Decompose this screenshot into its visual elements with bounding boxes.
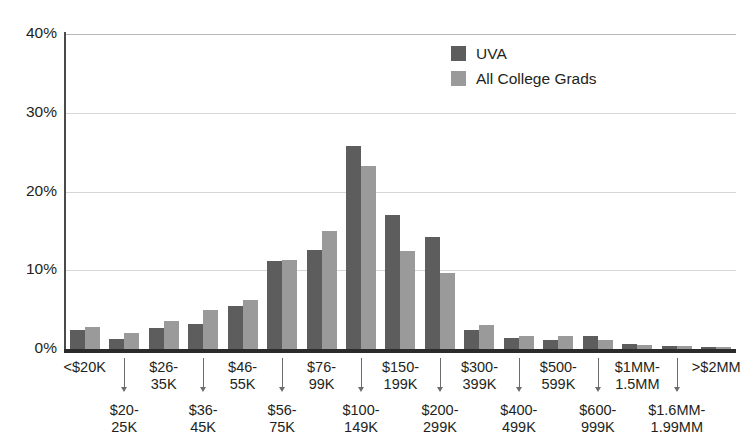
bar-group: [657, 34, 696, 349]
bar-all-college-grads: [519, 336, 534, 349]
bar-all-college-grads: [440, 273, 455, 349]
x-axis-tick-label: $100-149K: [316, 402, 406, 436]
x-axis-tick-label: $36-45K: [158, 402, 248, 436]
bar-all-college-grads: [400, 251, 415, 349]
x-axis-tick-label-line: >$2MM: [671, 359, 756, 376]
legend-label-all-college-grads: All College Grads: [476, 70, 597, 88]
bar-all-college-grads: [558, 336, 573, 349]
x-axis-tick-label-line: 1.99MM: [632, 419, 722, 436]
y-axis-line: [64, 32, 66, 351]
plot-area: [65, 34, 736, 349]
x-axis-tick-label-line: 499K: [474, 419, 564, 436]
x-axis-tick-label: $26-35K: [119, 359, 209, 393]
y-axis-tick-label: 30%: [0, 103, 57, 121]
bar-uva: [346, 146, 361, 349]
x-axis-tick-label-line: $600-: [553, 402, 643, 419]
legend-item-all-college-grads: All College Grads: [451, 66, 597, 91]
x-axis-tick-label: $400-499K: [474, 402, 564, 436]
bar-group: [65, 34, 104, 349]
x-axis-line: [64, 349, 736, 353]
bar-uva: [583, 336, 598, 349]
bar-all-college-grads: [243, 300, 258, 349]
x-axis-tick-label-line: 35K: [119, 376, 209, 393]
x-axis-tick-label-line: 399K: [434, 376, 524, 393]
x-axis-tick-label: >$2MM: [671, 359, 756, 376]
y-axis-tick-label: 10%: [0, 260, 57, 278]
x-axis-labels: <$20K$20-25K$26-35K$36-45K$46-55K$56-75K…: [65, 356, 736, 443]
x-axis-tick-label-line: 99K: [277, 376, 367, 393]
x-axis-tick-label: $500-599K: [513, 359, 603, 393]
bar-group: [104, 34, 143, 349]
x-axis-tick-label-line: $36-: [158, 402, 248, 419]
x-axis-tick-label-line: $26-: [119, 359, 209, 376]
bar-group: [302, 34, 341, 349]
bar-all-college-grads: [203, 310, 218, 349]
bar-uva: [425, 237, 440, 349]
x-axis-tick-label-line: 299K: [395, 419, 485, 436]
x-axis-tick-label-line: 55K: [198, 376, 288, 393]
bar-all-college-grads: [322, 231, 337, 349]
x-axis-tick-label-line: $300-: [434, 359, 524, 376]
x-axis-tick-label-line: $1MM-: [592, 359, 682, 376]
x-axis-tick-label-line: $100-: [316, 402, 406, 419]
bar-group: [183, 34, 222, 349]
x-axis-tick-label-line: $150-: [356, 359, 446, 376]
x-axis-tick-label-line: 75K: [237, 419, 327, 436]
x-axis-tick-label-line: $20-: [79, 402, 169, 419]
x-axis-tick-label-line: <$20K: [40, 359, 130, 376]
bar-uva: [543, 340, 558, 349]
bar-group: [341, 34, 380, 349]
x-axis-tick-label-line: $76-: [277, 359, 367, 376]
bar-uva: [228, 306, 243, 349]
bar-uva: [70, 330, 85, 349]
legend-swatch-all-college-grads: [451, 71, 466, 86]
bar-uva: [109, 339, 124, 349]
x-axis-tick-label: $600-999K: [553, 402, 643, 436]
bar-all-college-grads: [124, 333, 139, 349]
x-axis-tick-label-line: 999K: [553, 419, 643, 436]
bar-series-container: [65, 34, 736, 349]
x-axis-tick-label: $1.6MM-1.99MM: [632, 402, 722, 436]
legend-item-uva: UVA: [451, 41, 597, 66]
y-axis-tick-label: 20%: [0, 182, 57, 200]
bar-group: [618, 34, 657, 349]
bar-all-college-grads: [479, 325, 494, 349]
bar-all-college-grads: [164, 321, 179, 349]
x-axis-tick-label-line: $400-: [474, 402, 564, 419]
y-axis-tick-label: 0%: [0, 339, 57, 357]
x-axis-tick-arrow-icon: [674, 387, 680, 392]
x-axis-tick-label: $56-75K: [237, 402, 327, 436]
chart-legend: UVA All College Grads: [451, 41, 597, 91]
bar-uva: [188, 324, 203, 349]
x-axis-tick-label-line: $46-: [198, 359, 288, 376]
x-axis-tick-label-line: $500-: [513, 359, 603, 376]
x-axis-tick-label: $76-99K: [277, 359, 367, 393]
x-axis-tick-label: $200-299K: [395, 402, 485, 436]
x-axis-tick-label-line: 1.5MM: [592, 376, 682, 393]
bar-group: [144, 34, 183, 349]
x-axis-tick-label-line: 45K: [158, 419, 248, 436]
x-axis-tick-label: $150-199K: [356, 359, 446, 393]
bar-uva: [267, 261, 282, 349]
bar-uva: [504, 338, 519, 349]
bar-group: [381, 34, 420, 349]
bar-chart: 0%10%20%30%40% UVA All College Grads <$2…: [0, 0, 756, 443]
x-axis-tick-label-line: $1.6MM-: [632, 402, 722, 419]
x-axis-tick-label: $46-55K: [198, 359, 288, 393]
bar-all-college-grads: [85, 327, 100, 349]
x-axis-tick-label-line: $56-: [237, 402, 327, 419]
bar-all-college-grads: [598, 340, 613, 349]
x-axis-tick-label: $1MM-1.5MM: [592, 359, 682, 393]
bar-uva: [149, 328, 164, 349]
y-axis-tick-label: 40%: [0, 24, 57, 42]
bar-uva: [464, 330, 479, 349]
x-axis-tick-label-line: 149K: [316, 419, 406, 436]
x-axis-tick-label-line: 199K: [356, 376, 446, 393]
bar-group: [262, 34, 301, 349]
legend-label-uva: UVA: [476, 45, 507, 63]
legend-swatch-uva: [451, 46, 466, 61]
x-axis-tick-label: $300-399K: [434, 359, 524, 393]
x-axis-tick-label-line: 599K: [513, 376, 603, 393]
bar-group: [223, 34, 262, 349]
bar-uva: [307, 250, 322, 349]
